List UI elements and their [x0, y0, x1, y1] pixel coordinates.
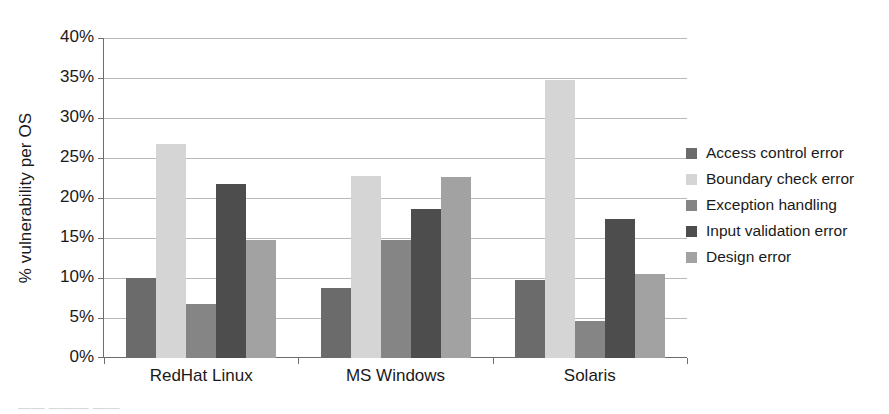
bar	[216, 184, 246, 358]
legend-swatch-icon	[686, 200, 697, 211]
legend-swatch-icon	[686, 226, 697, 237]
bar	[441, 177, 471, 358]
legend-swatch-icon	[686, 252, 697, 263]
y-tick-label: 35%	[32, 67, 94, 87]
bar	[381, 240, 411, 358]
bar	[246, 240, 276, 358]
legend-label: Input validation error	[706, 223, 847, 239]
x-tick-mark	[493, 358, 494, 364]
y-tick-label: 40%	[32, 27, 94, 47]
vulnerability-bar-chart: % vulnerability per OS RedHat LinuxMS Wi…	[0, 0, 889, 414]
bar	[545, 80, 575, 358]
legend-item: Boundary check error	[686, 166, 886, 192]
x-axis-group-label: MS Windows	[298, 366, 492, 386]
legend-item: Access control error	[686, 140, 886, 166]
x-tick-mark	[298, 358, 299, 364]
legend-label: Exception handling	[706, 197, 837, 213]
y-tick-label: 10%	[32, 267, 94, 287]
legend-swatch-icon	[686, 148, 697, 159]
bars-layer	[104, 38, 687, 358]
caption-fragment: —— ——— ——	[18, 400, 120, 411]
legend-item: Exception handling	[686, 192, 886, 218]
bar	[321, 288, 351, 358]
y-tick-label: 30%	[32, 107, 94, 127]
plot-area	[104, 38, 687, 358]
x-axis-group-label: RedHat Linux	[104, 366, 298, 386]
legend-label: Access control error	[706, 145, 844, 161]
legend-label: Boundary check error	[706, 171, 854, 187]
bar	[126, 278, 156, 358]
x-tick-mark	[104, 358, 105, 364]
chart-legend: Access control errorBoundary check error…	[686, 140, 886, 270]
legend-item: Design error	[686, 244, 886, 270]
y-tick-label: 20%	[32, 187, 94, 207]
y-tick-label: 15%	[32, 227, 94, 247]
legend-swatch-icon	[686, 174, 697, 185]
x-axis-group-label: Solaris	[493, 366, 687, 386]
y-tick-label: 0%	[32, 347, 94, 367]
bar	[635, 274, 665, 358]
bar	[575, 321, 605, 358]
bar	[605, 219, 635, 358]
bar	[351, 176, 381, 358]
x-tick-mark	[687, 358, 688, 364]
legend-label: Design error	[706, 249, 791, 265]
bar	[411, 209, 441, 358]
y-tick-label: 25%	[32, 147, 94, 167]
legend-item: Input validation error	[686, 218, 886, 244]
bar	[186, 304, 216, 358]
bar	[156, 144, 186, 358]
y-tick-label: 5%	[32, 307, 94, 327]
bar	[515, 280, 545, 358]
